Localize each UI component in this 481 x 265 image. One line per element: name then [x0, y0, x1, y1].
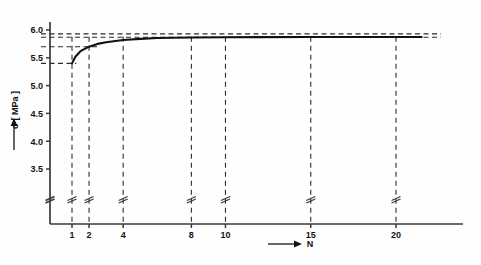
x-tick-label-4: 4 [121, 230, 126, 240]
x-axis-title-arrow-head [294, 241, 302, 248]
sigma-vs-n-line-chart: 3.54.04.55.05.56.01248101520Nσ [ MPa ] [0, 0, 481, 265]
x-tick-label-20: 20 [391, 230, 401, 240]
y-tick-label-5.5: 5.5 [30, 53, 43, 63]
x-tick-label-8: 8 [189, 230, 194, 240]
y-tick-label-4.0: 4.0 [30, 137, 43, 147]
y-tick-label-4.5: 4.5 [30, 109, 43, 119]
y-tick-label-6.0: 6.0 [30, 25, 43, 35]
chart-figure: 3.54.04.55.05.56.01248101520Nσ [ MPa ] [0, 0, 481, 265]
y-tick-label-5.0: 5.0 [30, 81, 43, 91]
x-axis-title: N [307, 239, 314, 249]
y-axis-title: σ [ MPa ] [10, 91, 20, 129]
y-tick-label-3.5: 3.5 [30, 164, 43, 174]
x-tick-label-10: 10 [220, 230, 230, 240]
x-tick-label-2: 2 [87, 230, 92, 240]
x-tick-label-1: 1 [69, 230, 74, 240]
data-curve-sigma-vs-N [72, 37, 422, 63]
